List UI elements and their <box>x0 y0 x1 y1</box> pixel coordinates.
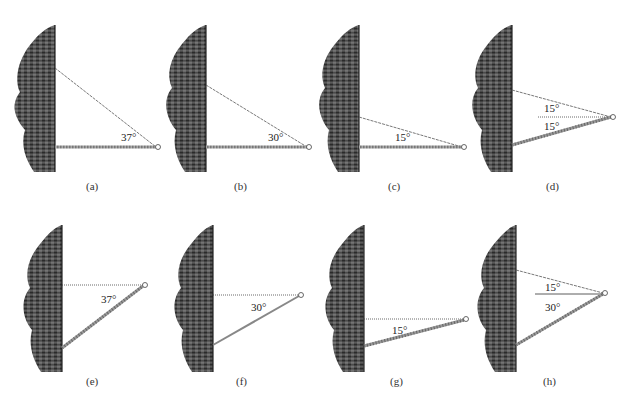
angle-label-upper: 15° <box>544 102 559 114</box>
rod <box>359 146 462 149</box>
wall <box>15 25 55 172</box>
panel-caption: (g) <box>390 375 403 388</box>
rod <box>55 146 156 149</box>
angle-label-lower: 15° <box>544 120 559 132</box>
hinge-ring-icon <box>611 115 616 120</box>
hinge-ring-icon <box>462 145 467 150</box>
panel-caption: (f) <box>236 375 247 388</box>
wall <box>174 225 213 372</box>
panel-caption: (h) <box>543 375 556 388</box>
hinge-ring-icon <box>603 291 608 296</box>
angle-label: 30° <box>268 131 283 143</box>
angle-label-lower: 30° <box>545 301 560 313</box>
panel-d: 15° 15° (d) <box>472 25 615 193</box>
string <box>55 68 156 147</box>
wall <box>325 225 364 372</box>
panel-caption: (b) <box>234 180 247 193</box>
panel-h: 15° 30° (h) <box>477 225 607 388</box>
angle-label: 37° <box>121 131 136 143</box>
hinge-ring-icon <box>299 293 304 298</box>
panel-caption: (c) <box>388 180 401 193</box>
angle-label: 15° <box>392 324 407 336</box>
panel-caption: (a) <box>86 180 99 193</box>
string <box>512 90 611 117</box>
rod <box>206 146 307 149</box>
angle-label: 30° <box>251 301 266 313</box>
string <box>206 85 307 147</box>
hinge-ring-icon <box>464 317 469 322</box>
wall <box>319 25 359 172</box>
panel-c: 15° (c) <box>319 25 466 193</box>
angle-label: 37° <box>101 293 116 305</box>
wall <box>166 25 206 172</box>
wall <box>23 225 62 372</box>
panel-caption: (d) <box>546 180 559 193</box>
wall <box>477 225 516 372</box>
hinge-ring-icon <box>307 145 312 150</box>
angle-label-upper: 15° <box>545 281 560 293</box>
panel-g: 15° (g) <box>325 225 468 388</box>
angle-label: 15° <box>395 131 410 143</box>
panel-a: 37° (a) <box>15 25 161 193</box>
string <box>359 117 462 147</box>
panel-f: 30° (f) <box>174 225 303 388</box>
panel-b: 30° (b) <box>166 25 311 193</box>
panel-caption: (e) <box>86 375 99 388</box>
wall <box>472 25 512 172</box>
panel-e: 37° (e) <box>23 225 147 388</box>
hinge-ring-icon <box>156 145 161 150</box>
figure-canvas: 37° (a) 30° (b) 15° (c) 15° 15° (d) <box>0 0 626 414</box>
hinge-ring-icon <box>143 283 148 288</box>
